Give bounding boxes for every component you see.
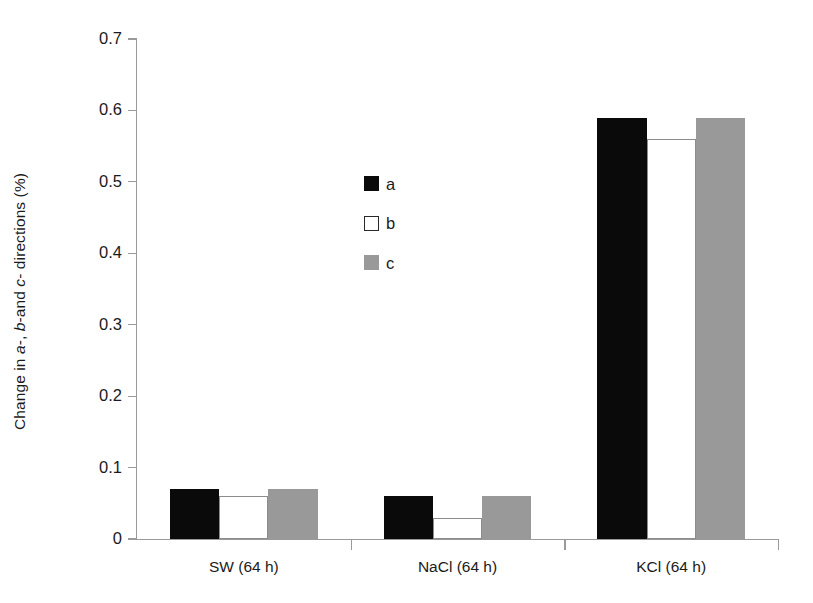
y-axis-title-part-6: - directions (%) (11, 173, 28, 279)
legend-swatch-a-icon (364, 176, 379, 191)
y-axis-tick (128, 110, 137, 111)
y-axis-tick-label: 0.2 (58, 386, 122, 405)
y-axis-tick (128, 181, 137, 182)
y-axis-tick (128, 396, 137, 397)
y-axis-tick-label: 0 (58, 529, 122, 548)
bar-c-2 (696, 118, 745, 539)
y-axis-title-part-2: -, (11, 331, 28, 345)
legend-item-a: a (364, 164, 395, 204)
chart-legend: abc (364, 164, 395, 283)
legend-item-b: b (364, 204, 395, 244)
legend-label-c: c (386, 255, 394, 272)
legend-item-c: c (364, 243, 395, 283)
bar-b-1 (433, 518, 482, 539)
x-axis-separator (351, 539, 352, 550)
y-axis-title-part-4: -and (11, 287, 28, 323)
y-axis-line (136, 38, 137, 540)
bar-a-0 (170, 489, 219, 539)
legend-swatch-b-icon (364, 216, 379, 231)
bar-chart-figure: Change in a-, b-and c- directions (%) 00… (0, 0, 813, 603)
x-axis-separator (564, 539, 565, 550)
x-axis-category-label: SW (64 h) (209, 558, 279, 576)
y-axis-tick-label: 0.5 (58, 172, 122, 191)
bar-b-0 (219, 496, 268, 539)
legend-label-a: a (386, 176, 395, 193)
y-axis-tick (128, 324, 137, 325)
y-axis-title-part-0: Change in (11, 354, 28, 430)
bar-b-2 (647, 139, 696, 539)
x-axis-end-tick (778, 539, 779, 550)
y-axis-tick-label: 0.6 (58, 100, 122, 119)
y-axis-tick (128, 253, 137, 254)
bar-c-1 (482, 496, 531, 539)
y-axis-tick-label: 0.1 (58, 458, 122, 477)
y-axis-tick (128, 467, 137, 468)
x-axis-category-label: KCl (64 h) (636, 558, 706, 576)
y-axis-tick (128, 38, 137, 39)
y-axis-title-part-5: c (11, 279, 28, 287)
legend-swatch-c-icon (364, 255, 379, 270)
x-axis-category-label: NaCl (64 h) (418, 558, 497, 576)
bar-a-1 (384, 496, 433, 539)
y-axis-tick-label: 0.4 (58, 243, 122, 262)
y-axis-tick-label: 0.7 (58, 29, 122, 48)
legend-label-b: b (386, 215, 395, 232)
y-axis-title: Change in a-, b-and c- directions (%) (0, 0, 40, 603)
y-axis-title-part-1: a (11, 345, 28, 354)
bar-c-0 (268, 489, 317, 539)
bar-a-2 (597, 118, 646, 539)
y-axis-title-part-3: b (11, 323, 28, 332)
y-axis-tick (128, 538, 137, 539)
y-axis-tick-label: 0.3 (58, 315, 122, 334)
